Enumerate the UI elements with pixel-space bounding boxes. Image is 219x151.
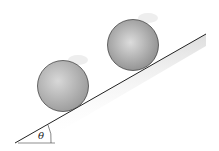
sphere-small <box>38 61 89 112</box>
angle-label: θ <box>38 130 44 141</box>
sphere-large <box>108 20 159 71</box>
incline-diagram: θ <box>0 0 219 151</box>
